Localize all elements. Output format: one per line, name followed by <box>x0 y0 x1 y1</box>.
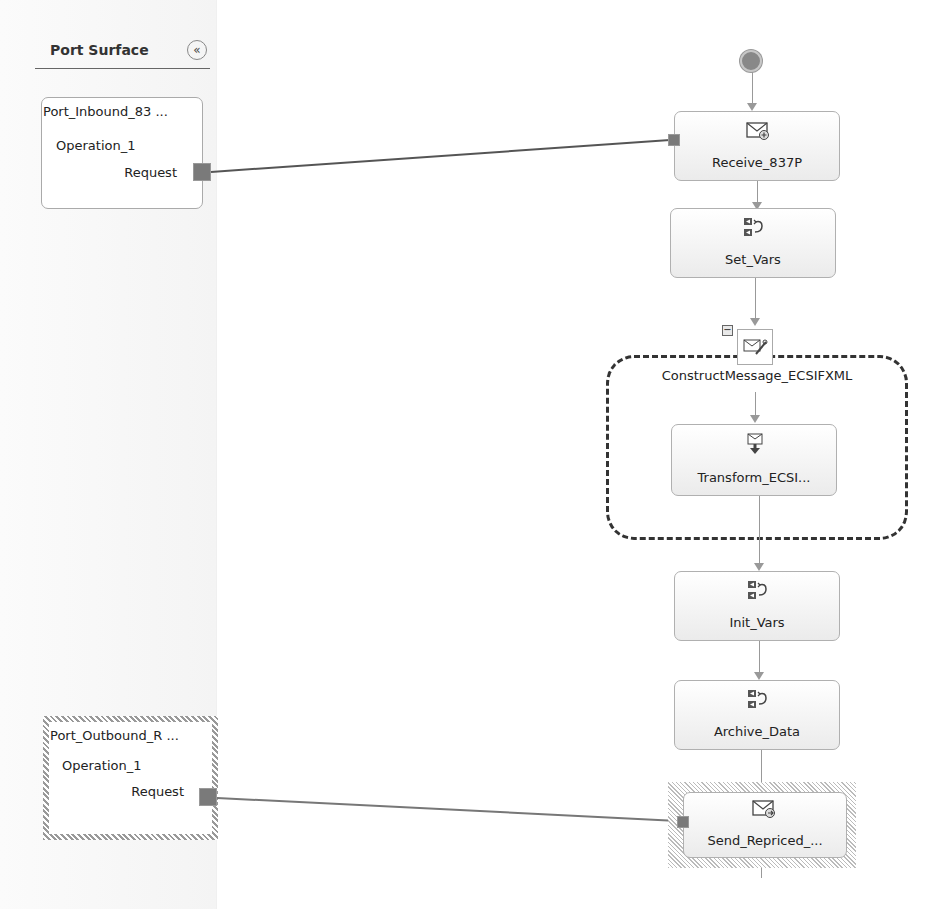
shape-archive-data[interactable]: Archive_Data <box>674 680 840 750</box>
flow-line <box>755 278 756 321</box>
shape-set-vars[interactable]: Set_Vars <box>670 208 836 278</box>
expression-icon <box>746 689 770 711</box>
flow-line <box>755 392 756 417</box>
scope-label: ConstructMessage_ECSIFXML <box>606 368 908 383</box>
flow-line <box>757 181 758 204</box>
shape-label: Send_Repriced_... <box>684 833 846 848</box>
flow-line <box>761 868 762 878</box>
construct-message-icon <box>737 329 773 365</box>
send-port-connector[interactable] <box>677 816 689 828</box>
flow-arrow <box>750 415 760 423</box>
shape-init-vars[interactable]: Init_Vars <box>674 571 840 641</box>
flow-arrow <box>747 103 757 111</box>
shape-receive-837p[interactable]: Receive_837P <box>674 111 840 181</box>
expression-icon <box>746 580 770 602</box>
receive-port-connector[interactable] <box>668 134 680 146</box>
transform-icon <box>743 433 767 455</box>
flow-arrow <box>750 318 760 326</box>
send-envelope-icon <box>752 798 776 820</box>
shape-label: Init_Vars <box>675 615 839 630</box>
flow-line <box>759 496 760 566</box>
shape-label: Set_Vars <box>671 252 835 267</box>
flow-line <box>761 750 762 784</box>
flow-line <box>752 72 753 105</box>
shape-label: Receive_837P <box>675 155 839 170</box>
flow-arrow <box>754 563 764 571</box>
flow-line <box>759 641 760 674</box>
collapse-toggle[interactable]: − <box>722 325 733 336</box>
shape-label: Archive_Data <box>675 724 839 739</box>
shape-label: Transform_ECSI... <box>672 470 836 485</box>
expression-icon <box>742 217 766 239</box>
flow-arrow <box>754 672 764 680</box>
receive-envelope-icon <box>746 120 770 142</box>
shape-transform[interactable]: Transform_ECSI... <box>671 424 837 496</box>
shape-send-repriced[interactable]: Send_Repriced_... <box>683 792 847 858</box>
start-circle-icon <box>740 50 762 72</box>
